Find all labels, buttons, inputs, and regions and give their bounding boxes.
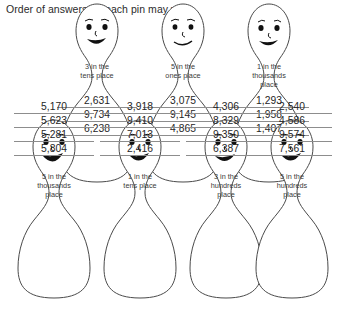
answer-value[interactable]: 5,170	[6, 100, 102, 114]
answer-value[interactable]: 5,623	[6, 114, 102, 128]
answer-value[interactable]: 9,574	[244, 128, 340, 142]
answer-value[interactable]: 5,281	[6, 128, 102, 142]
worksheet-canvas: Order of answers on each pin may vary. 3…	[0, 0, 343, 319]
answer-value[interactable]: 7,561	[244, 142, 340, 156]
answer-value[interactable]: 2,416	[92, 142, 188, 156]
answers-layer: 2,631 9,734 6,238 3,075 9,145 4,865 1,29…	[0, 0, 343, 319]
answer-value[interactable]: 9,410	[92, 114, 188, 128]
answer-value[interactable]: 2,540	[244, 100, 340, 114]
pin-answer-list: 2,540 4,586 9,574 7,561	[244, 100, 340, 156]
pin-answer-list: 5,170 5,623 5,281 5,804	[6, 100, 102, 156]
answer-value[interactable]: 4,586	[244, 114, 340, 128]
answer-value[interactable]: 5,804	[6, 142, 102, 156]
answer-value[interactable]: 7,013	[92, 128, 188, 142]
pin-answer-list: 3,918 9,410 7,013 2,416	[92, 100, 188, 156]
answer-value[interactable]: 3,918	[92, 100, 188, 114]
